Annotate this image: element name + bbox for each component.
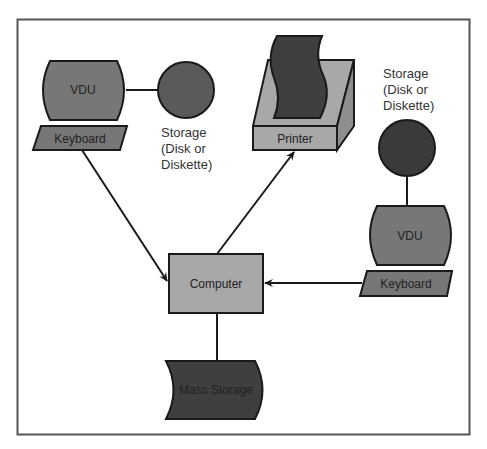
- keyboard-left[interactable]: Keyboard: [33, 126, 127, 150]
- computer[interactable]: Computer: [169, 254, 263, 313]
- keyboard-right-label: Keyboard: [380, 277, 431, 291]
- storage-right-caption-3: Diskette): [383, 98, 434, 113]
- keyboard-right[interactable]: Keyboard: [360, 271, 452, 296]
- printer-label: Printer: [277, 132, 312, 146]
- mass-storage-label: Mass Storage: [179, 383, 253, 397]
- disk-icon: [158, 62, 214, 118]
- vdu-right-label: VDU: [397, 229, 422, 243]
- computer-label: Computer: [190, 277, 243, 291]
- mass-storage[interactable]: Mass Storage: [166, 361, 263, 419]
- disk-icon: [379, 120, 435, 176]
- keyboard-left-label: Keyboard: [54, 132, 105, 146]
- storage-right-caption-1: Storage: [383, 66, 429, 81]
- storage-right-caption-2: (Disk or: [383, 82, 428, 97]
- vdu-left-label: VDU: [70, 83, 95, 97]
- vdu-right[interactable]: VDU: [370, 206, 451, 265]
- paper-icon: [271, 36, 327, 118]
- storage-left-caption-1: Storage: [161, 125, 207, 140]
- computer-system-diagram: VDU Keyboard Storage (Disk or Diskette) …: [0, 0, 487, 449]
- storage-left-caption-2: (Disk or: [161, 141, 206, 156]
- vdu-left[interactable]: VDU: [43, 61, 124, 120]
- storage-left-caption-3: Diskette): [161, 157, 212, 172]
